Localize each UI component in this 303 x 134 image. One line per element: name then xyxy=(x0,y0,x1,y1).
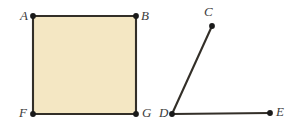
vertex-point-c xyxy=(209,23,215,29)
segment-de xyxy=(172,113,270,114)
vertex-label-b: B xyxy=(141,9,149,22)
vertex-point-d xyxy=(169,111,175,117)
vertex-label-g: G xyxy=(142,106,151,119)
vertex-label-d: D xyxy=(159,106,168,119)
vertex-point-b xyxy=(133,13,139,19)
vertex-label-e: E xyxy=(276,105,284,118)
segment-dc xyxy=(172,26,212,114)
vertex-point-a xyxy=(30,13,36,19)
geometry-figure-canvas: ABCDEFG xyxy=(0,0,303,134)
square-abgf-fill xyxy=(33,16,136,114)
vertex-point-e xyxy=(267,110,273,116)
vertex-point-g xyxy=(133,111,139,117)
vertex-label-f: F xyxy=(19,106,27,119)
geometry-diagram xyxy=(0,0,303,134)
vertex-point-f xyxy=(30,111,36,117)
vertex-label-a: A xyxy=(20,9,28,22)
shape-fills xyxy=(33,16,136,114)
vertex-label-c: C xyxy=(204,5,213,18)
